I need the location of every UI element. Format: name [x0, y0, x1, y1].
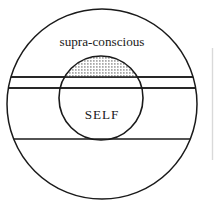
self-label: SELF	[85, 107, 119, 122]
psychosynthesis-egg-diagram: supra-conscious SELF	[0, 0, 218, 204]
diagram-canvas: supra-conscious SELF	[0, 0, 218, 204]
supra-conscious-label: supra-conscious	[60, 34, 145, 49]
